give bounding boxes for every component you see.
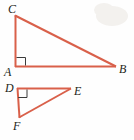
- vertex-label-a: A: [3, 65, 12, 79]
- vertex-label-c: C: [8, 2, 17, 16]
- scan-artifact-secondary: [94, 3, 114, 17]
- vertex-label-f: F: [12, 119, 21, 133]
- vertex-label-d: D: [4, 81, 14, 95]
- geometry-figure: C A B D E F: [0, 0, 134, 140]
- vertex-label-e: E: [73, 84, 82, 98]
- vertex-label-b: B: [119, 62, 127, 76]
- figure-canvas: C A B D E F: [0, 0, 134, 140]
